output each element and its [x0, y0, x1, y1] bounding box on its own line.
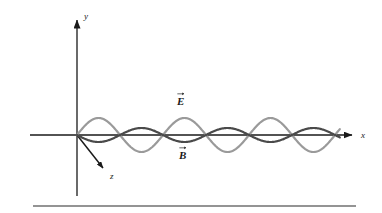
z-axis-label: z — [110, 172, 114, 181]
figure-canvas — [0, 0, 382, 213]
e-field-label-text: E — [177, 95, 184, 107]
e-vector-arrow-icon — [177, 91, 184, 96]
b-field-label: B — [179, 150, 186, 161]
y-axis-label: y — [84, 12, 88, 21]
b-vector-arrow-icon — [179, 145, 186, 150]
em-wave-figure: y x z E B — [0, 0, 382, 213]
e-field-label: E — [177, 96, 184, 107]
x-axis-label: x — [361, 131, 365, 140]
b-field-label-text: B — [179, 149, 186, 161]
